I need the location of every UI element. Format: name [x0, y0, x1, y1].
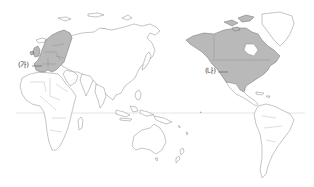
- uk: [30, 46, 40, 57]
- india: [80, 74, 93, 96]
- australia: [132, 124, 166, 154]
- caribbean: [256, 92, 270, 98]
- new-zealand: [176, 148, 184, 163]
- south-america: [254, 104, 294, 178]
- philippines: [135, 90, 141, 100]
- indonesia: [116, 106, 154, 121]
- iceland: [36, 38, 46, 43]
- madagascar: [78, 117, 83, 130]
- new-guinea: [154, 116, 172, 124]
- label-ga: (가): [18, 62, 29, 69]
- tasmania: [155, 158, 158, 161]
- label-na: (나): [205, 68, 216, 75]
- greenland: [262, 12, 294, 46]
- africa: [20, 72, 76, 150]
- canadian-arctic-islands: [224, 15, 254, 31]
- pacific-islands: [178, 112, 201, 135]
- world-map: [0, 0, 314, 187]
